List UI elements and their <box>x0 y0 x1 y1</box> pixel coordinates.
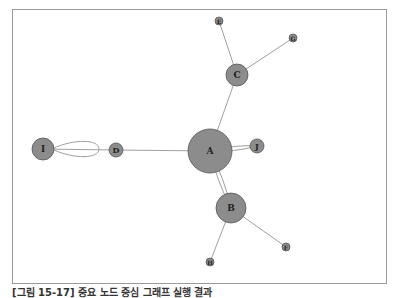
node-B: B <box>216 193 246 223</box>
node-D: D <box>109 143 123 157</box>
node-H: H <box>206 258 214 266</box>
node-label: B <box>227 203 235 213</box>
node-label: I <box>41 144 45 154</box>
node-label: C <box>233 70 240 80</box>
node-G: G <box>289 34 297 42</box>
node-A: A <box>188 129 232 173</box>
node-J: J <box>250 139 264 153</box>
node-label: D <box>113 145 120 155</box>
node-label: F <box>284 244 289 251</box>
figure-caption: [그림 15-17] 중요 노드 중심 그래프 실행 결과 <box>12 287 213 298</box>
node-E: E <box>215 17 223 25</box>
node-label: A <box>206 146 215 156</box>
network-graph: ABCDIJEGFH <box>0 0 400 298</box>
node-label: H <box>207 259 213 266</box>
node-label: E <box>217 18 222 25</box>
node-label: J <box>254 141 259 151</box>
nodes-group: ABCDIJEGFH <box>32 17 297 266</box>
node-C: C <box>226 64 248 86</box>
node-F: F <box>282 243 290 251</box>
node-I: I <box>32 138 54 160</box>
node-label: G <box>290 35 295 42</box>
